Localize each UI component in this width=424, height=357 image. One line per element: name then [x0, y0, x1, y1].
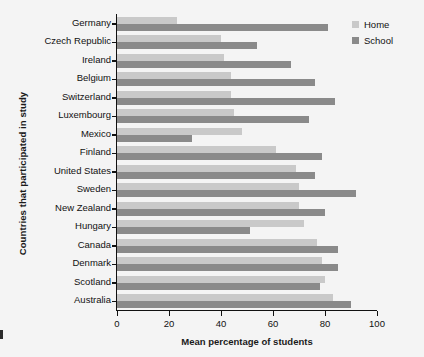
y-tick-label: Belgium [1, 72, 111, 83]
bar-home [117, 35, 221, 42]
y-tick-mark [112, 301, 117, 302]
bar-school [117, 24, 328, 31]
legend-item: School [352, 33, 422, 47]
x-tick-mark [221, 311, 222, 316]
legend-swatch-icon [352, 21, 359, 28]
bar-group [117, 88, 377, 107]
bar-school [117, 153, 322, 160]
bar-group [117, 125, 377, 144]
x-tick-label: 40 [216, 318, 227, 329]
bar-school [117, 301, 351, 308]
x-tick-label: 60 [268, 318, 279, 329]
x-tick-mark [169, 311, 170, 316]
bar-group [117, 70, 377, 89]
x-tick-label: 80 [320, 318, 331, 329]
bar-home [117, 128, 242, 135]
y-tick-mark [112, 171, 117, 172]
bar-school [117, 264, 338, 271]
chart-legend: HomeSchool [352, 17, 422, 49]
bar-school [117, 227, 250, 234]
y-tick-label: Australia [1, 294, 111, 305]
y-tick-mark [112, 60, 117, 61]
bar-school [117, 283, 320, 290]
bar-home [117, 202, 299, 209]
bar-group [117, 14, 377, 33]
bar-group [117, 218, 377, 237]
y-tick-mark [112, 42, 117, 43]
bar-home [117, 17, 177, 24]
bar-school [117, 246, 338, 253]
y-tick-label: Switzerland [1, 91, 111, 102]
x-tick-mark [377, 311, 378, 316]
y-tick-label: Canada [1, 239, 111, 250]
bar-home [117, 294, 333, 301]
bar-school [117, 190, 356, 197]
y-tick-mark [112, 23, 117, 24]
bar-home [117, 276, 325, 283]
y-tick-label: United States [1, 165, 111, 176]
bar-group [117, 144, 377, 163]
bar-school [117, 209, 325, 216]
y-tick-label: Czech Republic [1, 35, 111, 46]
edge-artifact [0, 330, 3, 339]
y-tick-label: Luxembourg [1, 109, 111, 120]
bar-group [117, 292, 377, 311]
y-axis-tick-labels: GermanyCzech RepublicIrelandBelgiumSwitz… [0, 14, 111, 310]
x-axis-title: Mean percentage of students [117, 336, 377, 347]
bar-group [117, 255, 377, 274]
y-tick-mark [112, 282, 117, 283]
legend-label: Home [364, 19, 389, 30]
bar-school [117, 42, 257, 49]
x-axis-line [116, 310, 377, 311]
y-tick-mark [112, 208, 117, 209]
x-tick-label: 20 [164, 318, 175, 329]
bar-home [117, 91, 231, 98]
y-tick-mark [112, 79, 117, 80]
bar-school [117, 98, 335, 105]
x-tick-label: 100 [369, 318, 385, 329]
bar-home [117, 165, 296, 172]
y-tick-label: Hungary [1, 220, 111, 231]
x-tick-mark [273, 311, 274, 316]
bar-group [117, 107, 377, 126]
y-tick-label: Sweden [1, 183, 111, 194]
y-tick-mark [112, 227, 117, 228]
y-tick-label: Germany [1, 17, 111, 28]
bar-school [117, 172, 315, 179]
bar-group [117, 181, 377, 200]
legend-swatch-icon [352, 37, 359, 44]
bar-home [117, 109, 234, 116]
x-tick-mark [325, 311, 326, 316]
y-tick-label: Finland [1, 146, 111, 157]
bar-group [117, 33, 377, 52]
bar-group [117, 51, 377, 70]
y-tick-label: Ireland [1, 54, 111, 65]
legend-label: School [364, 35, 393, 46]
x-tick-label: 0 [114, 318, 119, 329]
bar-school [117, 61, 291, 68]
y-tick-mark [112, 190, 117, 191]
bar-home [117, 54, 224, 61]
bar-home [117, 220, 304, 227]
bar-group [117, 273, 377, 292]
y-tick-mark [112, 97, 117, 98]
bar-group [117, 236, 377, 255]
bar-group [117, 199, 377, 218]
legend-item: Home [352, 17, 422, 31]
y-tick-mark [112, 116, 117, 117]
bar-school [117, 79, 315, 86]
y-tick-mark [112, 245, 117, 246]
bar-group [117, 162, 377, 181]
y-tick-mark [112, 153, 117, 154]
bar-home [117, 146, 276, 153]
bar-school [117, 135, 192, 142]
x-tick-mark [117, 311, 118, 316]
horizontal-bar-chart: Countries that participated in study Ger… [0, 0, 424, 357]
bar-home [117, 257, 322, 264]
bar-home [117, 183, 299, 190]
y-tick-label: Denmark [1, 257, 111, 268]
y-tick-label: Scotland [1, 276, 111, 287]
y-tick-label: New Zealand [1, 202, 111, 213]
y-tick-label: Mexico [1, 128, 111, 139]
bar-home [117, 72, 231, 79]
